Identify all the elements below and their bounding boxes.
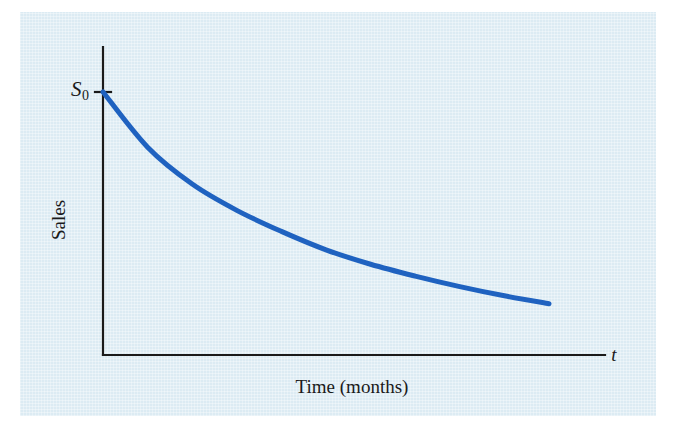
x-axis-variable-label: t [611,345,616,364]
sales-decay-curve [103,92,549,304]
y-intercept-symbol: S [71,77,82,101]
chart-plot-area [0,0,674,437]
y-axis-label: Sales [49,200,68,240]
x-axis-label: Time (months) [296,377,409,396]
data-series-group [103,92,549,304]
axes-group [95,47,605,355]
y-intercept-label: S0 [71,79,89,103]
figure-container: Sales Time (months) S0 t [0,0,674,437]
y-intercept-subscript: 0 [82,88,89,103]
